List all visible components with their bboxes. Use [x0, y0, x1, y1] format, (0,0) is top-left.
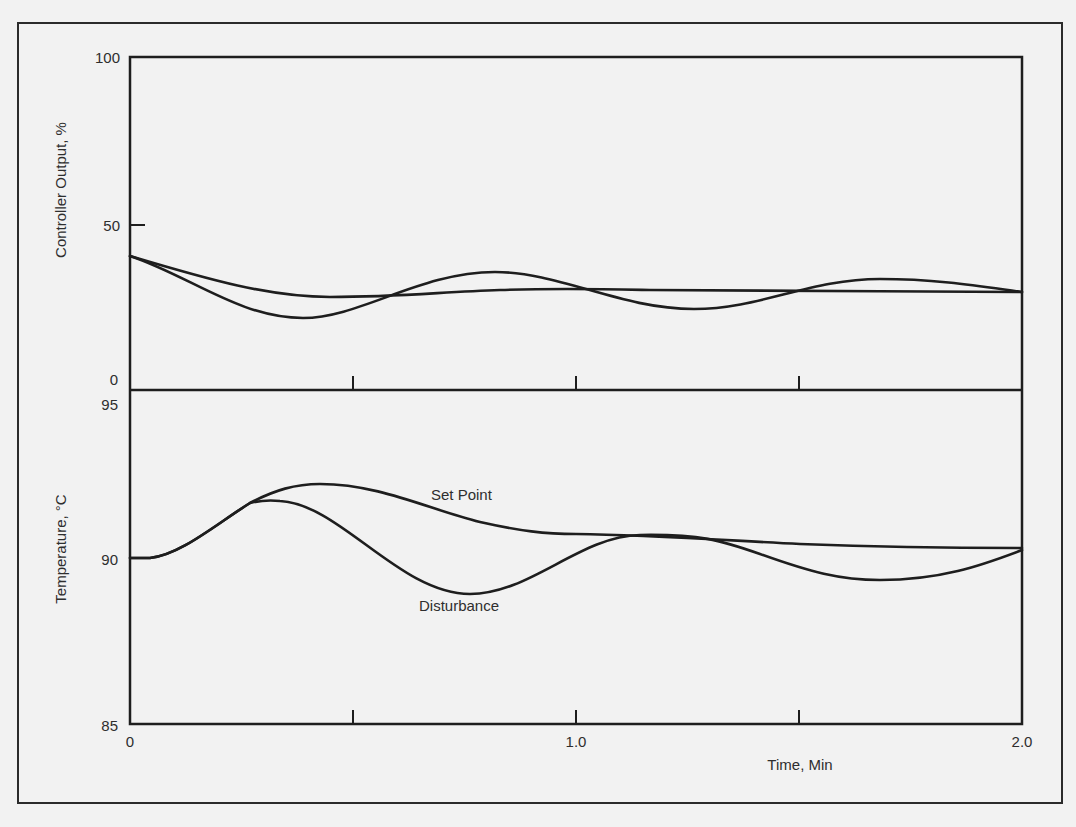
figure: 100 50 0 Controller Output, % 95 90 85 T…	[0, 0, 1076, 827]
upper-curve-set-point	[130, 256, 1022, 318]
x-label-2.0: 2.0	[1012, 733, 1033, 750]
upper-y-axis-title: Controller Output, %	[52, 122, 69, 258]
lower-plot-border	[130, 390, 1022, 724]
lower-y-axis-title: Temperature, °C	[52, 494, 69, 604]
x-label-0: 0	[126, 733, 134, 750]
x-axis: 0 1.0 2.0 Time, Min	[126, 733, 1033, 773]
x-label-1.0: 1.0	[566, 733, 587, 750]
lower-y-label-85: 85	[101, 717, 118, 734]
upper-y-label-50: 50	[103, 217, 120, 234]
lower-panel: 95 90 85 Temperature, °C Set Point Distu…	[52, 390, 1022, 734]
set-point-annotation: Set Point	[431, 486, 493, 503]
upper-panel: 100 50 0 Controller Output, %	[52, 49, 1022, 390]
disturbance-annotation: Disturbance	[419, 597, 499, 614]
lower-y-label-90: 90	[101, 551, 118, 568]
upper-plot-border	[130, 57, 1022, 390]
x-axis-title: Time, Min	[767, 756, 832, 773]
lower-y-label-95: 95	[101, 396, 118, 413]
lower-curve-set-point	[130, 484, 1022, 558]
upper-y-label-0: 0	[110, 371, 118, 388]
figure-frame	[18, 23, 1062, 803]
upper-y-label-100: 100	[95, 49, 120, 66]
upper-curve-disturbance	[130, 256, 1022, 297]
